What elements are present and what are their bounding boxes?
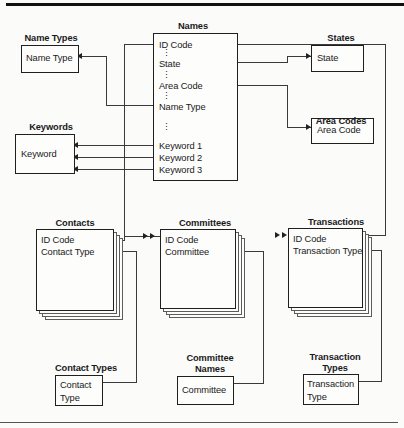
ellipsis-dot: ⋮ xyxy=(162,52,171,55)
connector-transactiontype-down xyxy=(381,250,382,382)
ellipsis-dot: ⋮ xyxy=(162,126,171,129)
ellipsis-dot: ⋮ xyxy=(162,74,171,77)
arrowhead-committees-idcode-b xyxy=(150,233,155,239)
field-area-code: Area Code xyxy=(317,125,361,135)
connector-keyword1 xyxy=(78,145,154,146)
connector-nametype-left xyxy=(106,105,154,106)
caption-committees: Committees xyxy=(163,218,247,229)
ellipsis-names-3: ⋮ xyxy=(162,95,171,98)
connector-committee-down xyxy=(263,251,264,384)
arrowhead-transactions-idcode-b xyxy=(282,232,287,238)
caption-transactions: Transactions xyxy=(288,217,384,228)
field-names-area-code: Area Code xyxy=(159,81,203,91)
connector-nametype-to-nametypes xyxy=(82,56,107,57)
caption-transaction-types-line-1: Transaction xyxy=(309,352,360,362)
ellipsis-names-2: ⋮ xyxy=(162,74,171,77)
entity-keywords[interactable]: Keyword xyxy=(15,134,75,174)
caption-transaction-types-line-2: Types xyxy=(322,363,348,373)
field-transaction-types-line-2: Type xyxy=(307,392,327,402)
entity-states[interactable]: State xyxy=(311,45,364,72)
field-state: State xyxy=(317,53,338,63)
connector-contacttype-to-box xyxy=(100,382,137,383)
field-contacts-id-code: ID Code xyxy=(41,235,74,245)
entity-committee-names[interactable]: Committee xyxy=(177,376,234,405)
field-transactions-transaction-type: Transaction Type xyxy=(293,246,362,256)
top-rule xyxy=(6,3,404,6)
entity-contact-types[interactable]: Contact Type xyxy=(55,375,103,406)
connector-idcode-left xyxy=(124,44,154,45)
field-contact-types-line-2: Type xyxy=(60,393,80,403)
entity-name-types[interactable]: Name Type xyxy=(21,45,79,73)
caption-name-types: Name Types xyxy=(8,33,94,44)
arrowhead-committees-idcode-a xyxy=(143,233,148,239)
field-name-type: Name Type xyxy=(26,53,72,63)
caption-states: States xyxy=(305,33,377,44)
caption-names: Names xyxy=(150,21,236,32)
entity-transaction-types[interactable]: Transaction Type xyxy=(303,374,359,405)
caption-transaction-types: Transaction Types xyxy=(292,352,378,373)
caption-committee-names: Committee Names xyxy=(170,353,250,374)
field-names-keyword-1: Keyword 1 xyxy=(159,141,202,151)
connector-nametype-up xyxy=(106,56,107,106)
caption-committee-names-line-1: Committee xyxy=(186,353,233,363)
connector-keyword2 xyxy=(78,157,154,158)
field-committee-names-committee: Committee xyxy=(182,385,226,395)
field-keyword: Keyword xyxy=(21,149,56,159)
caption-contacts: Contacts xyxy=(36,218,114,229)
field-contact-types-line-1: Contact xyxy=(60,380,91,390)
caption-keywords: Keywords xyxy=(8,122,94,133)
connector-idcode-down-right xyxy=(385,44,386,236)
bottom-rule xyxy=(0,422,398,423)
ellipsis-names-1: ⋮ xyxy=(162,52,171,55)
field-transaction-types-line-1: Transaction xyxy=(307,379,354,389)
connector-keyword3 xyxy=(78,169,154,170)
field-contacts-contact-type: Contact Type xyxy=(41,247,94,257)
field-names-state: State xyxy=(159,59,180,69)
ellipsis-names-4: ⋮ xyxy=(162,126,171,129)
field-committees-committee: Committee xyxy=(165,247,209,257)
entity-transactions[interactable]: ID Code Transaction Type xyxy=(288,228,363,308)
caption-contact-types: Contact Types xyxy=(38,363,134,374)
arrowhead-transactions-idcode-a xyxy=(275,232,280,238)
ellipsis-dot: ⋮ xyxy=(162,95,171,98)
field-transactions-id-code: ID Code xyxy=(293,234,326,244)
caption-area-codes: Area Codes xyxy=(300,116,382,127)
connector-idcode-left-down xyxy=(124,44,125,241)
entity-committees[interactable]: ID Code Committee xyxy=(160,229,236,309)
connector-contacttype-down xyxy=(136,251,137,383)
connector-areacode-down xyxy=(287,85,288,128)
caption-committee-names-line-2: Names xyxy=(195,364,225,374)
field-names-keyword-2: Keyword 2 xyxy=(159,153,202,163)
field-names-name-type: Name Type xyxy=(159,102,205,112)
diagram-canvas: Name Types Name Type Keywords Keyword Na… xyxy=(0,0,404,428)
field-committees-id-code: ID Code xyxy=(165,235,198,245)
field-names-keyword-3: Keyword 3 xyxy=(159,165,202,175)
entity-contacts[interactable]: ID Code Contact Type xyxy=(36,229,114,311)
